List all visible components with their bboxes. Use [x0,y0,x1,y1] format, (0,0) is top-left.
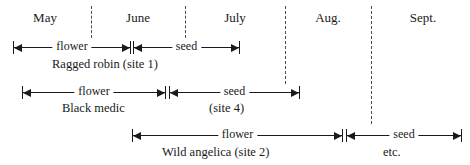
row-caption-wild-angelica: Wild angelica (site 2) [162,145,269,159]
arrow-head-right [291,89,299,97]
arrow-head-left [134,44,142,52]
segment-end-cap-right [165,86,166,99]
segment-flower: flower [13,41,131,55]
row-caption-ragged-robin: Ragged robin (site 1) [52,57,158,71]
arrow-head-left [347,132,355,140]
month-label-june: June [93,10,183,25]
month-divider-aug-sept [371,6,372,124]
segment-label: flower [218,127,257,142]
row-caption-black-medic: Black medic [62,101,125,115]
segment-end-cap-right [461,129,462,142]
month-label-may: May [0,10,90,25]
segment-label: flower [52,39,91,54]
month-divider-june-july [185,6,186,38]
month-label-sept: Sept. [378,10,468,25]
segment-label: seed [172,39,201,54]
segment-end-cap-right [342,129,343,142]
arrow-head-left [170,89,178,97]
month-label-july: July [190,10,280,25]
arrow-head-right [231,44,239,52]
arrow-head-left [23,89,31,97]
segment-end-cap-right [130,41,131,54]
arrow-head-right [334,132,342,140]
segment-label: seed [220,84,249,99]
annotation-site-4: (site 4) [209,101,244,115]
arrow-head-left [14,44,22,52]
segment-seed: seed [133,41,240,55]
phenology-timeline-figure: May June July Aug. Sept. flower seed Rag… [0,0,470,165]
segment-label: flower [74,84,113,99]
arrow-head-right [122,44,130,52]
segment-seed: seed [169,86,300,100]
segment-label: seed [389,127,418,142]
month-divider-july-aug [285,6,286,84]
annotation-etc: etc. [383,145,401,159]
month-label-aug: Aug. [283,10,373,25]
segment-seed: seed [346,129,462,143]
arrow-head-left [133,132,141,140]
arrow-head-right [157,89,165,97]
segment-flower: flower [132,129,343,143]
segment-flower: flower [22,86,166,100]
arrow-head-right [453,132,461,140]
segment-end-cap-right [239,41,240,54]
month-divider-may-june [91,6,92,38]
segment-end-cap-right [299,86,300,99]
